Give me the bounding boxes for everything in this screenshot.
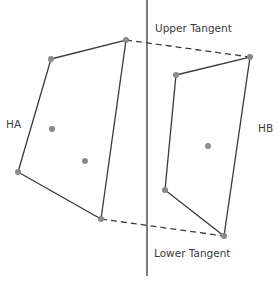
hull-b-vertex — [173, 72, 179, 78]
hull-b-vertex — [162, 187, 168, 193]
hull-a-label: HA — [6, 119, 21, 130]
hull-a-vertex — [48, 56, 54, 62]
hull-a-interior-point — [49, 126, 55, 132]
merge-hull-diagram — [0, 0, 277, 281]
upper-tangent-line — [126, 40, 250, 57]
hull-a-interior-point — [82, 158, 88, 164]
lower-tangent-label: Lower Tangent — [154, 248, 230, 259]
hull-b-label: HB — [258, 123, 273, 134]
hull-a-vertex — [123, 37, 129, 43]
hull-b-vertex — [221, 233, 227, 239]
hull-a-vertex — [98, 216, 104, 222]
upper-tangent-label: Upper Tangent — [155, 23, 232, 34]
hull-a-points — [15, 37, 129, 222]
hull-b-interior-point — [205, 143, 211, 149]
hull-b-vertex — [247, 54, 253, 60]
hull-a-polygon — [18, 40, 126, 219]
hull-a-vertex — [15, 169, 21, 175]
